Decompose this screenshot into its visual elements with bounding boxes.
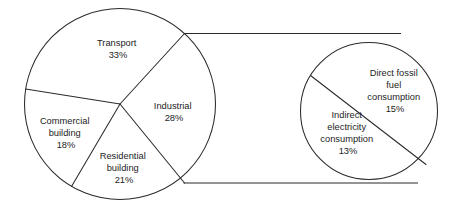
industrial-breakdown-pie: Direct fossil fuel consumption 15% Indir… <box>301 43 438 180</box>
breakdown-pie-outline <box>301 43 438 180</box>
main-energy-pie: Transport 33% Industrial 28% Residential… <box>25 9 216 200</box>
pie-chart-figure: Transport 33% Industrial 28% Residential… <box>0 0 465 216</box>
energy-consumption-pie-diagram: Transport 33% Industrial 28% Residential… <box>0 0 465 216</box>
